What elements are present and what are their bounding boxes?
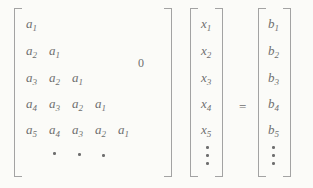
b-vector-entry-2-subscript: 2 (275, 50, 280, 60)
b-vector-left-bracket (258, 8, 266, 177)
b-vector-entry-3-subscript: 3 (275, 77, 280, 87)
x-vector-ellipsis-dot (206, 162, 209, 165)
matrix-entry-r1c1: a1 (26, 17, 37, 33)
b-vector-entry-1-subscript: 1 (275, 23, 280, 33)
matrix-entry-r5c4-subscript: 2 (102, 129, 107, 139)
x-vector-entry-4: x4 (201, 97, 211, 113)
b-vector-entry-4: b4 (268, 97, 279, 113)
matrix-entry-r2c1-subscript: 2 (33, 50, 38, 60)
matrix-entry-r4c2: a3 (49, 97, 60, 113)
x-vector-left-bracket (190, 8, 198, 177)
matrix-entry-r5c4: a2 (95, 123, 106, 139)
equals-sign: = (239, 100, 246, 114)
matrix-entry-r5c3-subscript: 3 (79, 129, 84, 139)
b-vector-entry-4-subscript: 4 (275, 103, 280, 113)
b-vector-entry-1: b1 (268, 17, 279, 33)
x-vector-right-bracket (215, 8, 223, 177)
matrix-entry-r4c3-subscript: 2 (79, 103, 84, 113)
matrix-entry-r1c1-subscript: 1 (33, 23, 38, 33)
x-vector-entry-2: x2 (201, 44, 211, 60)
x-vector-entry-1: x1 (201, 17, 211, 33)
x-vector-ellipsis-dot (206, 154, 209, 157)
matrix-entry-r3c1-subscript: 3 (33, 77, 38, 87)
matrix-entry-r3c2: a2 (49, 71, 60, 87)
matrix-diagonal-ellipsis-dot (53, 152, 56, 155)
b-vector-ellipsis-dot (272, 146, 275, 149)
matrix-entry-r5c2: a4 (49, 123, 60, 139)
matrix-diagonal-ellipsis-dot (102, 154, 105, 157)
matrix-entry-r4c2-subscript: 3 (56, 103, 61, 113)
matrix-entry-r5c3: a3 (72, 123, 83, 139)
matrix-entry-r2c2-subscript: 1 (56, 50, 61, 60)
b-vector-right-bracket (283, 8, 291, 177)
matrix-entry-r4c1: a4 (26, 97, 37, 113)
matrix-entry-r5c5-subscript: 1 (125, 129, 130, 139)
b-vector-entry-5: b5 (268, 123, 279, 139)
x-vector-ellipsis-dot (206, 146, 209, 149)
matrix-entry-r4c1-subscript: 4 (33, 103, 38, 113)
x-vector-entry-2-subscript: 2 (207, 50, 212, 60)
matrix-entry-r4c4-subscript: 1 (102, 103, 107, 113)
matrix-entry-r4c3: a2 (72, 97, 83, 113)
zero-block-label: 0 (138, 56, 144, 70)
matrix-left-bracket (14, 8, 22, 177)
toeplitz-equation-figure: 0 = a1a2a1a3a2a1a4a3a2a1a5a4a3a2a1x1x2x3… (0, 0, 313, 188)
x-vector-entry-5-subscript: 5 (207, 129, 212, 139)
matrix-entry-r5c2-subscript: 4 (56, 129, 61, 139)
b-vector-entry-5-subscript: 5 (275, 129, 280, 139)
matrix-entry-r3c3: a1 (72, 71, 83, 87)
x-vector-entry-5: x5 (201, 123, 211, 139)
x-vector-entry-4-subscript: 4 (207, 103, 212, 113)
matrix-entry-r2c2: a1 (49, 44, 60, 60)
matrix-entry-r5c1: a5 (26, 123, 37, 139)
x-vector-entry-1-subscript: 1 (207, 23, 212, 33)
matrix-entry-r3c2-subscript: 2 (56, 77, 61, 87)
x-vector-entry-3-subscript: 3 (207, 77, 212, 87)
matrix-entry-r3c3-subscript: 1 (79, 77, 84, 87)
matrix-entry-r5c1-subscript: 5 (33, 129, 38, 139)
b-vector-ellipsis-dot (272, 154, 275, 157)
b-vector-entry-2: b2 (268, 44, 279, 60)
x-vector-entry-3: x3 (201, 71, 211, 87)
matrix-entry-r2c1: a2 (26, 44, 37, 60)
matrix-entry-r5c5: a1 (118, 123, 129, 139)
b-vector-ellipsis-dot (272, 162, 275, 165)
matrix-entry-r4c4: a1 (95, 97, 106, 113)
matrix-right-bracket (164, 8, 172, 177)
matrix-diagonal-ellipsis-dot (78, 153, 81, 156)
matrix-entry-r3c1: a3 (26, 71, 37, 87)
b-vector-entry-3: b3 (268, 71, 279, 87)
